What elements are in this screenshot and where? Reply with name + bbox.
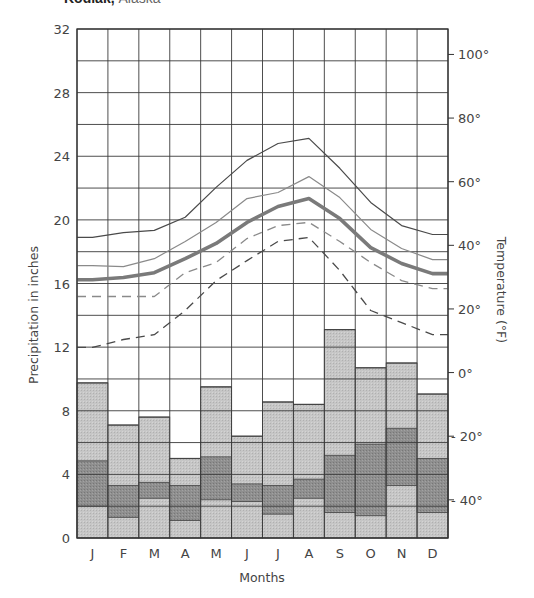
left-tick-label: 20 [53, 213, 70, 228]
month-label: O [366, 546, 376, 561]
precip-bar [170, 458, 201, 538]
precip-bar [417, 394, 448, 538]
precip-bar [386, 363, 417, 538]
right-tick-label: - 20° [451, 429, 483, 444]
precip-bar [355, 368, 386, 538]
right-axis-ticks: - 40°- 20°0°20°40°60°80°100° [448, 47, 489, 507]
month-label: M [211, 546, 222, 561]
right-tick-label: 0° [458, 366, 473, 381]
month-label: N [397, 546, 407, 561]
month-labels: JFMAMJJASOND [90, 546, 438, 561]
left-tick-label: 8 [62, 404, 70, 419]
precip-bar [293, 404, 324, 538]
precip-bar [232, 436, 263, 538]
x-axis-label: Months [239, 570, 285, 585]
left-tick-label: 4 [62, 467, 70, 482]
precip-bar [139, 417, 170, 538]
month-label: A [181, 546, 190, 561]
right-tick-label: 60° [458, 175, 481, 190]
left-tick-label: 16 [53, 277, 70, 292]
right-tick-label: 80° [458, 111, 481, 126]
left-tick-label: 0 [62, 531, 70, 546]
left-tick-label: 32 [53, 22, 70, 37]
precip-bar [77, 383, 108, 538]
right-tick-label: 100° [458, 47, 489, 62]
right-tick-label: 20° [458, 302, 481, 317]
left-axis-label: Precipitation in inches [26, 246, 41, 384]
month-label: A [304, 546, 313, 561]
left-tick-label: 12 [53, 340, 70, 355]
month-label: J [90, 546, 95, 561]
right-axis-label: Temperature (°F) [494, 236, 509, 343]
month-label: J [275, 546, 280, 561]
left-tick-label: 28 [53, 86, 70, 101]
left-tick-label: 24 [53, 149, 70, 164]
precip-bar [201, 387, 232, 538]
month-label: F [120, 546, 127, 561]
precip-bar [108, 425, 139, 538]
right-tick-label: - 40° [451, 493, 483, 508]
right-tick-label: 40° [458, 238, 481, 253]
month-label: J [244, 546, 249, 561]
left-axis-ticks: 048121620242832 [53, 22, 70, 546]
month-label: D [428, 546, 438, 561]
precip-bar [263, 402, 294, 538]
climate-chart: 048121620242832 - 40°- 20°0°20°40°60°80°… [0, 0, 534, 598]
precip-bar [324, 330, 355, 538]
month-label: M [149, 546, 160, 561]
month-label: S [336, 546, 344, 561]
